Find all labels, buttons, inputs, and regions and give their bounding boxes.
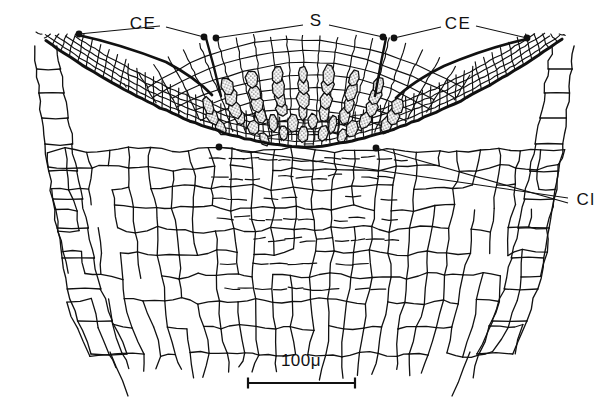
marker-dot-ce-left-0	[76, 31, 83, 38]
marker-dot-ce-right-1	[524, 35, 531, 42]
marker-dot-cl-right-1	[373, 145, 380, 152]
annotation-s-center: S	[213, 11, 387, 41]
marker-dot-cl-right-0	[216, 144, 223, 151]
leader-line-ce-left-1	[166, 27, 204, 37]
marker-dot-ce-left-1	[201, 34, 208, 41]
shoot-apex-drawing: CESCECl100μ	[0, 0, 609, 410]
label-ce-left: CE	[130, 14, 156, 33]
annotation-ce-right: CE	[391, 14, 531, 41]
figure-root: CESCECl100μ	[0, 0, 609, 410]
leader-line-s-center-0	[216, 25, 303, 38]
scale-bar-label: 100μ	[281, 351, 321, 370]
annotation-ce-left: CE	[76, 14, 208, 40]
label-cl-right: Cl	[577, 190, 596, 209]
marker-dot-s-center-1	[380, 34, 387, 41]
marker-dot-s-center-0	[213, 35, 220, 42]
leader-line-ce-right-0	[394, 27, 441, 38]
label-s-center: S	[310, 11, 323, 30]
leader-line-cl-right-1	[376, 148, 568, 203]
scale-bar: 100μ	[248, 351, 355, 388]
leader-line-ce-right-1	[476, 26, 527, 38]
marker-dot-ce-right-0	[391, 35, 398, 42]
label-ce-right: CE	[445, 14, 471, 33]
